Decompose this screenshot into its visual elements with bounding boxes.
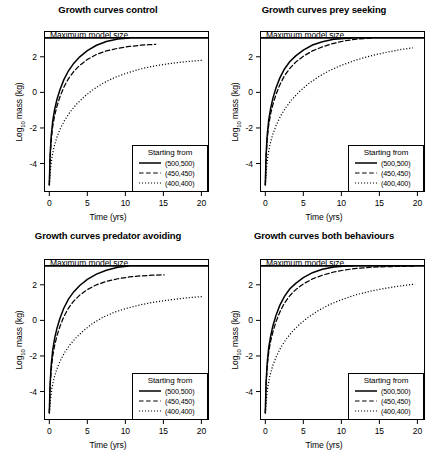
y-axis-title: Log10 mass (kg): [230, 310, 242, 369]
x-tick-label: 10: [121, 426, 130, 436]
legend-item: (400,400): [137, 178, 203, 188]
x-tick-label: 0: [47, 198, 52, 208]
x-axis-title: Time (yrs): [216, 440, 432, 450]
y-axis-title-base: Log: [14, 355, 24, 369]
x-axis-title: Time (yrs): [216, 212, 432, 222]
y-tick-label: -2: [245, 123, 253, 133]
legend-label: (400,400): [163, 407, 194, 416]
legend-title: Starting from: [137, 376, 203, 385]
legend-key-dotted: [353, 406, 379, 416]
legend: Starting from(500,500)(450,450)(400,400): [348, 373, 424, 420]
y-axis-title: Log10 mass (kg): [14, 310, 26, 369]
chart-panel: Growth curves prey seekingMaximum model …: [216, 0, 432, 226]
max-model-size-annotation: Maximum model size: [260, 31, 425, 38]
legend-key-solid: [353, 386, 379, 396]
x-tick-label: 15: [159, 426, 168, 436]
y-axis-title-subscript: 10: [236, 121, 242, 127]
legend-item: (400,400): [353, 406, 419, 416]
legend-key-dashed: [353, 168, 379, 178]
legend-item: (450,450): [353, 396, 419, 406]
legend-label: (500,500): [163, 387, 194, 396]
y-tick-label: -4: [245, 387, 253, 397]
legend-key-solid: [137, 158, 163, 168]
legend-title: Starting from: [353, 148, 419, 157]
x-tick-label: 15: [159, 198, 168, 208]
y-axis-title: Log10 mass (kg): [14, 82, 26, 141]
legend-item: (400,400): [353, 178, 419, 188]
y-axis-title-subscript: 10: [236, 349, 242, 355]
x-tick-label: 10: [337, 426, 346, 436]
x-tick-label: 20: [197, 198, 206, 208]
max-model-size-label: Maximum model size: [50, 30, 128, 40]
chart-panel: Growth curves predator avoidingMaximum m…: [0, 226, 216, 453]
x-tick-label: 15: [375, 198, 384, 208]
x-axis-title: Time (yrs): [0, 212, 216, 222]
curve-solid: [265, 38, 352, 185]
y-tick-label: 2: [248, 52, 253, 62]
chart-panel: Growth curves controlMaximum model size0…: [0, 0, 216, 226]
legend-key-dashed: [137, 168, 163, 178]
x-tick-label: 5: [301, 426, 306, 436]
legend-label: (450,450): [379, 397, 410, 406]
y-axis-title-rest: mass (kg): [14, 310, 24, 349]
x-tick-label: 10: [337, 198, 346, 208]
legend-title: Starting from: [353, 376, 419, 385]
legend-key-dashed: [353, 396, 379, 406]
legend-label: (400,400): [163, 179, 194, 188]
legend-label: (500,500): [163, 159, 194, 168]
y-tick-label: -4: [29, 159, 37, 169]
legend-item: (500,500): [137, 386, 203, 396]
legend-item: (450,450): [137, 168, 203, 178]
x-tick-label: 5: [301, 198, 306, 208]
legend-key-dotted: [137, 406, 163, 416]
max-model-size-annotation: Maximum model size: [44, 31, 209, 38]
curve-solid: [49, 266, 128, 413]
y-axis-title-subscript: 10: [20, 121, 26, 127]
max-model-size-label: Maximum model size: [50, 258, 128, 268]
x-tick-label: 0: [47, 426, 52, 436]
max-model-size-label: Maximum model size: [266, 258, 344, 268]
legend-key-dotted: [137, 178, 163, 188]
y-axis-title-subscript: 10: [20, 349, 26, 355]
legend-label: (450,450): [379, 169, 410, 178]
legend: Starting from(500,500)(450,450)(400,400): [132, 145, 208, 192]
x-tick-label: 0: [263, 198, 268, 208]
y-axis-title: Log10 mass (kg): [230, 82, 242, 141]
y-axis-title-base: Log: [230, 127, 240, 141]
legend-item: (400,400): [137, 406, 203, 416]
x-tick-label: 0: [263, 426, 268, 436]
y-tick-label: -4: [29, 387, 37, 397]
y-tick-label: 0: [248, 87, 253, 97]
x-tick-label: 20: [197, 426, 206, 436]
y-tick-label: 2: [248, 280, 253, 290]
x-tick-label: 10: [121, 198, 130, 208]
growth-curves-figure: Growth curves controlMaximum model size0…: [0, 0, 432, 453]
legend-label: (500,500): [379, 159, 410, 168]
max-model-size-annotation: Maximum model size: [44, 259, 209, 266]
legend-label: (450,450): [163, 397, 194, 406]
legend-label: (450,450): [163, 169, 194, 178]
legend-label: (400,400): [379, 179, 410, 188]
curve-solid: [265, 266, 353, 413]
max-model-size-label: Maximum model size: [266, 30, 344, 40]
y-axis-title-base: Log: [14, 127, 24, 141]
y-tick-label: -2: [29, 351, 37, 361]
legend: Starting from(500,500)(450,450)(400,400): [348, 145, 424, 192]
legend-label: (400,400): [379, 407, 410, 416]
x-tick-label: 5: [85, 198, 90, 208]
legend-item: (450,450): [137, 396, 203, 406]
legend-item: (500,500): [137, 158, 203, 168]
curve-solid: [49, 38, 129, 185]
legend-item: (500,500): [353, 158, 419, 168]
y-tick-label: 2: [32, 280, 37, 290]
legend-label: (500,500): [379, 387, 410, 396]
x-tick-label: 20: [413, 198, 422, 208]
legend-title: Starting from: [137, 148, 203, 157]
y-axis-title-rest: mass (kg): [230, 82, 240, 121]
y-axis-title-rest: mass (kg): [230, 310, 240, 349]
y-tick-label: 0: [32, 87, 37, 97]
x-tick-label: 15: [375, 426, 384, 436]
legend-item: (500,500): [353, 386, 419, 396]
legend-key-dashed: [137, 396, 163, 406]
chart-panel: Growth curves both behavioursMaximum mod…: [216, 226, 432, 453]
